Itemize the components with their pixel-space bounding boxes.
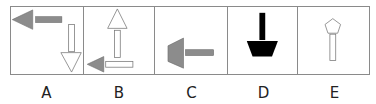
option-b-panel[interactable] <box>84 7 156 74</box>
options-strip <box>10 6 370 75</box>
option-label-c: C <box>155 84 228 102</box>
horizontal-bar <box>186 50 214 56</box>
option-a-panel[interactable] <box>11 7 84 74</box>
option-label-d: D <box>228 84 299 102</box>
option-a-figure <box>11 7 83 74</box>
pentagon-shape <box>325 19 341 34</box>
vertical-bar <box>259 13 265 40</box>
option-c-figure <box>155 7 227 74</box>
up-arrow-shaft <box>114 30 120 57</box>
option-b-figure <box>84 7 155 74</box>
down-arrow-shaft <box>69 24 75 51</box>
down-arrow-head-icon <box>61 53 81 72</box>
left-arrow-shaft <box>36 17 62 23</box>
option-labels: A B C D E <box>10 84 370 102</box>
option-label-e: E <box>299 84 370 102</box>
option-d-figure <box>228 7 298 74</box>
left-arrow-head-icon <box>12 10 32 29</box>
option-label-b: B <box>83 84 155 102</box>
option-label-a: A <box>10 84 83 102</box>
vertical-bar <box>330 34 336 60</box>
option-c-panel[interactable] <box>155 7 228 74</box>
option-e-figure <box>298 7 369 74</box>
trapezoid-shape <box>247 41 278 57</box>
up-arrow-head-icon <box>107 9 126 28</box>
option-d-panel[interactable] <box>228 7 299 74</box>
left-arrow-head-icon <box>87 57 104 73</box>
left-arrow-shaft <box>105 61 132 67</box>
option-e-panel[interactable] <box>298 7 369 74</box>
trapezoid-shape <box>168 38 184 68</box>
